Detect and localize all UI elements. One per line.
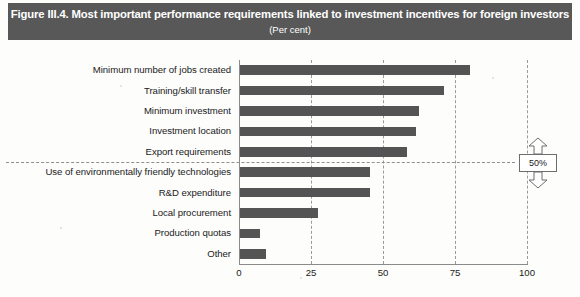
reference-badge-50: 50% [516, 137, 560, 189]
category-label: Use of environmentally friendly technolo… [45, 166, 231, 177]
arrow-up-icon [527, 137, 549, 155]
bar [240, 208, 318, 218]
x-tick-label: 75 [440, 267, 470, 278]
bar [240, 147, 407, 157]
figure-page: Figure III.4. Most important performance… [0, 0, 580, 297]
category-label: R&D expenditure [159, 187, 231, 198]
bar [240, 65, 470, 75]
bar-row: Local procurement [0, 203, 580, 223]
bar [240, 188, 370, 198]
chart-plot-area: Minimum number of jobs createdTraining/s… [0, 41, 580, 297]
arrow-down-icon [527, 171, 549, 189]
bar-row: Other [0, 244, 580, 264]
figure-title-banner: Figure III.4. Most important performance… [8, 3, 572, 40]
bar-row: R&D expenditure [0, 182, 580, 202]
bar-row: Export requirements [0, 142, 580, 162]
bar-row: Production quotas [0, 223, 580, 243]
x-tick-label: 0 [224, 267, 254, 278]
category-label: Other [207, 248, 231, 259]
category-label: Training/skill transfer [144, 85, 231, 96]
x-axis-line [239, 264, 528, 265]
bar [240, 167, 370, 177]
reference-line-50 [6, 162, 515, 163]
bar [240, 249, 266, 259]
x-tick-label: 50 [368, 267, 398, 278]
bar [240, 106, 419, 116]
category-label: Minimum number of jobs created [93, 64, 231, 75]
reference-badge-label: 50% [519, 154, 557, 172]
bar [240, 229, 260, 239]
category-label: Export requirements [146, 146, 231, 157]
bar-row: Investment location [0, 121, 580, 141]
page-title: Figure III.4. Most important performance… [8, 7, 572, 21]
bar-row: Training/skill transfer [0, 80, 580, 100]
category-label: Investment location [149, 125, 231, 136]
bar-row: Use of environmentally friendly technolo… [0, 162, 580, 182]
bar [240, 86, 444, 96]
category-label: Minimum investment [144, 105, 231, 116]
bar-row: Minimum investment [0, 101, 580, 121]
bar [240, 127, 416, 137]
x-tick-label: 100 [512, 267, 542, 278]
category-label: Local procurement [152, 207, 231, 218]
figure-subtitle: (Per cent) [8, 23, 572, 36]
category-label: Production quotas [155, 227, 232, 238]
